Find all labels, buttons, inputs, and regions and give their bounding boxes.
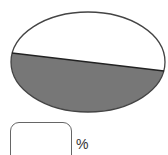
ellipse-figure (0, 0, 168, 120)
answer-input-box[interactable] (10, 122, 72, 155)
percent-label: % (76, 136, 88, 152)
